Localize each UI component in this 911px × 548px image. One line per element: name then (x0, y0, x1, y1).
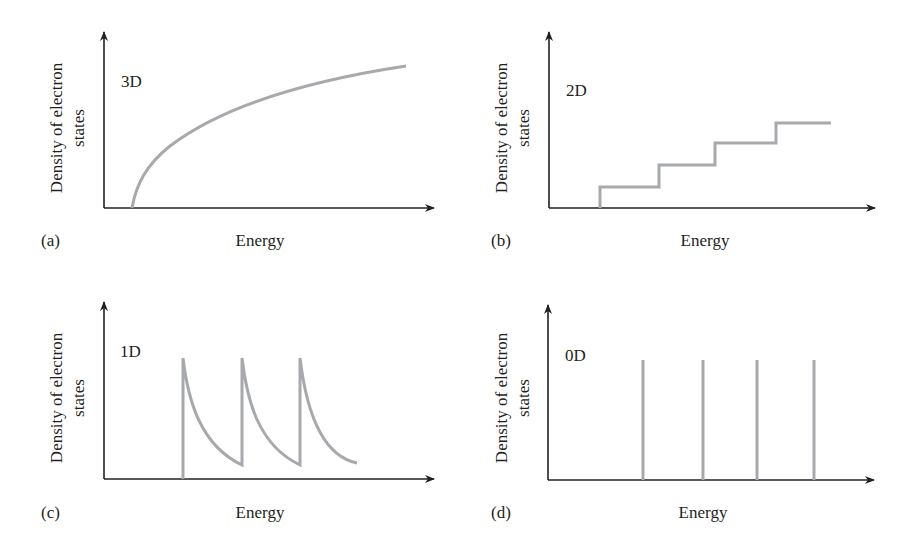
x-axis-label: Energy (679, 503, 728, 522)
dim-label: 3D (121, 72, 142, 91)
panel-tag: (d) (491, 503, 511, 522)
dos-curve-3d (132, 66, 406, 208)
y-axis-label-line2: states (514, 109, 533, 147)
panel-tag: (b) (491, 231, 511, 250)
x-axis-label: Energy (236, 503, 285, 522)
y-axis-label-line1: Density of electron (492, 62, 511, 193)
y-axis-label-line1: Density of electron (47, 62, 66, 193)
y-axis-label-line1: Density of electron (47, 332, 66, 463)
dim-label: 0D (565, 346, 586, 365)
y-axis-label-line2: states (514, 379, 533, 417)
y-axis-label-line2: states (69, 109, 88, 147)
dos-figure: 3D Density of electron states (a) Energy… (0, 0, 911, 548)
panel-tag: (a) (41, 231, 60, 250)
dim-label: 1D (120, 342, 141, 361)
y-axis-label-line1: Density of electron (492, 332, 511, 463)
y-axis-label-line2: states (69, 379, 88, 417)
dos-lines-0d (643, 360, 814, 480)
panel-a: 3D Density of electron states (a) Energy (41, 32, 434, 250)
dos-curve-1d (183, 358, 357, 479)
panel-d: 0D Density of electron states (d) Energy (491, 305, 874, 522)
panel-tag: (c) (41, 503, 60, 522)
dim-label: 2D (566, 81, 587, 100)
panel-b: 2D Density of electron states (b) Energy (491, 32, 875, 250)
x-axis-label: Energy (236, 231, 285, 250)
dos-curve-2d (600, 123, 831, 208)
x-axis-label: Energy (681, 231, 730, 250)
panel-c: 1D Density of electron states (c) Energy (41, 302, 434, 522)
